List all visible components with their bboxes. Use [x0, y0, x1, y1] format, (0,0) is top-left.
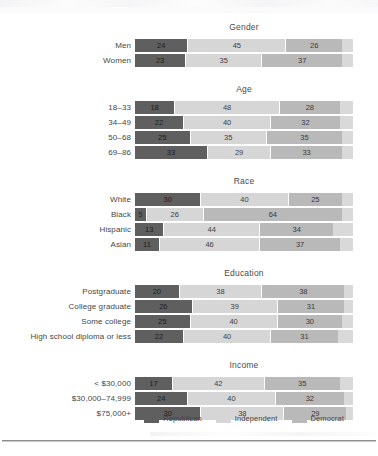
segment-value: 37 [298, 54, 306, 67]
row-track: 224031 [135, 330, 353, 343]
segment-value: 13 [145, 223, 153, 236]
segment-value: 20 [153, 285, 161, 298]
chart-row: College graduate263931 [0, 300, 378, 313]
row-track: 332933 [135, 146, 353, 159]
segment-value: 11 [143, 238, 151, 251]
row-track: 184828 [135, 101, 353, 114]
row-label: College graduate [0, 300, 131, 313]
row-label: Men [0, 39, 131, 52]
row-label: < $30,000 [0, 377, 131, 390]
legend-swatch-democrat [292, 414, 307, 423]
segment-value: 45 [233, 39, 241, 52]
legend-label: Independent [235, 414, 278, 423]
row-label: 69–86 [0, 146, 131, 159]
legend-item-independent: Independent [216, 414, 278, 423]
segment-independent: 44 [163, 223, 259, 236]
segment-value: 48 [223, 101, 231, 114]
segment-republican: 33 [135, 146, 207, 159]
segment-value: 37 [296, 238, 304, 251]
chart-row: White304025 [0, 193, 378, 206]
segment-democrat: 32 [275, 392, 345, 405]
row-track: 52664 [135, 208, 353, 221]
legend-swatch-republican [144, 414, 159, 423]
row-label: 50–68 [0, 131, 131, 144]
chart-row: Black52664 [0, 208, 378, 221]
segment-value: 64 [269, 208, 277, 221]
segment-value: 40 [223, 330, 231, 343]
segment-republican: 24 [135, 392, 187, 405]
segment-independent: 45 [187, 39, 285, 52]
segment-independent: 39 [192, 300, 277, 313]
segment-independent: 46 [159, 238, 259, 251]
segment-value: 40 [223, 116, 231, 129]
segment-value: 30 [306, 315, 314, 328]
row-track: 304025 [135, 193, 353, 206]
segment-value: 26 [310, 39, 318, 52]
segment-independent: 40 [183, 330, 270, 343]
segment-value: 33 [167, 146, 175, 159]
segment-republican: 22 [135, 330, 183, 343]
segment-value: 17 [149, 377, 157, 390]
segment-value: 44 [208, 223, 216, 236]
row-track: 174235 [135, 377, 353, 390]
segment-republican: 30 [135, 193, 200, 206]
row-label: White [0, 193, 131, 206]
segment-democrat: 35 [264, 377, 340, 390]
segment-independent: 35 [190, 131, 266, 144]
segment-value: 34 [293, 223, 301, 236]
segment-independent: 26 [146, 208, 203, 221]
segment-republican: 26 [135, 300, 192, 313]
group-rows: 18–3318482834–4922403250–6825353569–8633… [0, 101, 378, 161]
segment-value: 42 [214, 377, 222, 390]
segment-independent: 35 [185, 54, 261, 67]
legend-item-republican: Republican [144, 414, 202, 423]
segment-independent: 38 [179, 285, 262, 298]
row-label: $30,000–74,999 [0, 392, 131, 405]
segment-republican: 11 [135, 238, 159, 251]
row-track: 203838 [135, 285, 353, 298]
segment-republican: 5 [135, 208, 146, 221]
segment-independent: 29 [207, 146, 270, 159]
segment-value: 40 [229, 315, 237, 328]
segment-democrat: 37 [259, 238, 340, 251]
segment-value: 26 [171, 208, 179, 221]
chart-row: Asian114637 [0, 238, 378, 251]
chart-row: 50–68253535 [0, 131, 378, 144]
segment-value: 40 [240, 193, 248, 206]
chart-row: 69–86332933 [0, 146, 378, 159]
segment-value: 35 [220, 54, 228, 67]
chart-legend: RepublicanIndependentDemocrat [135, 414, 353, 423]
segment-democrat: 38 [261, 285, 344, 298]
segment-value: 28 [306, 101, 314, 114]
legend-swatch-independent [216, 414, 231, 423]
segment-independent: 40 [190, 315, 277, 328]
segment-value: 22 [155, 330, 163, 343]
scan-artifact-bottom [150, 432, 376, 436]
segment-democrat: 31 [270, 330, 338, 343]
segment-value: 32 [306, 392, 314, 405]
bottom-divider-rule-shadow [2, 441, 376, 442]
row-track: 254030 [135, 315, 353, 328]
segment-value: 46 [205, 238, 213, 251]
segment-value: 40 [227, 392, 235, 405]
row-track: 263931 [135, 300, 353, 313]
segment-democrat: 31 [277, 300, 345, 313]
segment-value: 38 [299, 285, 307, 298]
segment-value: 35 [224, 131, 232, 144]
group-title: Education [135, 268, 353, 278]
segment-democrat: 25 [288, 193, 343, 206]
row-track: 114637 [135, 238, 353, 251]
legend-label: Democrat [311, 414, 344, 423]
segment-value: 39 [231, 300, 239, 313]
segment-republican: 17 [135, 377, 172, 390]
row-track: 224032 [135, 116, 353, 129]
chart-row: < $30,000174235 [0, 377, 378, 390]
chart-row: 34–49224032 [0, 116, 378, 129]
segment-republican: 13 [135, 223, 163, 236]
segment-republican: 25 [135, 315, 190, 328]
segment-independent: 42 [172, 377, 264, 390]
segment-democrat: 30 [277, 315, 342, 328]
segment-value: 18 [150, 101, 158, 114]
row-track: 134434 [135, 223, 353, 236]
segment-value: 32 [301, 116, 309, 129]
